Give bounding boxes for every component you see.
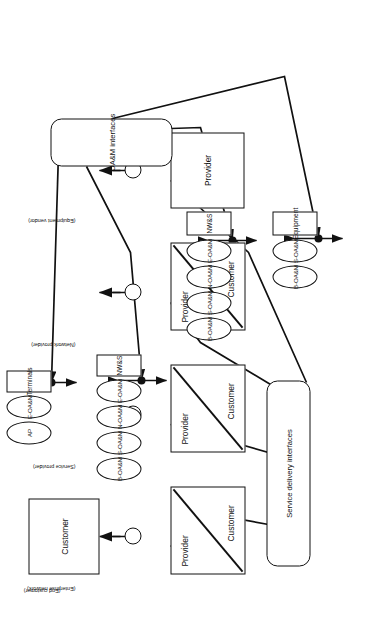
endpoint-equipment-label: Equipment [291, 207, 298, 239]
endpoint-terminals[interactable]: Terminals [6, 370, 51, 392]
oval-s-oam-nws2-label: S-OA&M [205, 291, 212, 315]
paren-service-provider: (Service provider) [32, 463, 75, 468]
node-service-customer-label: Customer [225, 383, 235, 419]
oval-s-oam-equipment-label: S-OA&M [291, 239, 298, 263]
node-end-customer[interactable]: Customer [28, 498, 99, 574]
group-service-delivery-interfaces[interactable]: Service delivery interfaces [266, 380, 310, 566]
oval-b-oam-equipment-label: B-OA&M [291, 265, 298, 289]
oval-n-oam-nws2-label: N-OA&M [205, 264, 212, 288]
node-service-provider-label: Provider [179, 413, 189, 444]
oval-s-oam-nws1[interactable]: S-OA&M [96, 431, 141, 454]
oval-e-oam-nws2-label: E-OA&M [205, 239, 212, 263]
node-service-provider[interactable]: Provider Customer [170, 364, 245, 452]
oval-e-oam-terminals-label: E-OA&M [25, 395, 32, 419]
paren-equipment-vendor: (Equipment vendor) [28, 217, 75, 222]
endpoint-equipment[interactable]: Equipment [272, 211, 317, 235]
oval-s-oam-equipment[interactable]: S-OA&M [272, 239, 317, 262]
paren-network-provider: (Network provider) [31, 341, 75, 346]
group-oam-interfaces[interactable]: OA&M interfaces [50, 118, 172, 166]
oval-e-oam-nws1[interactable]: E-OA&M [96, 379, 141, 402]
endpoint-terminals-label: Terminals [25, 367, 32, 395]
oval-b-oam-nws1-label: B-OA&M [115, 457, 122, 481]
oval-ap[interactable]: AP [6, 421, 51, 444]
paren-enterprise-network: (Enterprise network) [26, 585, 75, 590]
oval-n-oam-nws2[interactable]: N-OA&M [186, 265, 231, 288]
oval-b-oam-nws1[interactable]: B-OA&M [96, 457, 141, 480]
oval-b-oam-equipment[interactable]: B-OA&M [272, 265, 317, 288]
node-end-customer-label: Customer [59, 499, 69, 573]
node-equipment-vendor[interactable]: Provider [170, 132, 244, 208]
figure-canvas: Customer (End customer) Provider Custome… [0, 0, 373, 632]
oval-e-oam-nws1-label: E-OA&M [115, 379, 122, 403]
node-enterprise-customer-label: Customer [225, 505, 235, 541]
node-equipment-vendor-label: Provider [202, 133, 212, 207]
oval-b-oam-nws2-label: B-OA&M [205, 317, 212, 341]
oval-s-oam-nws2[interactable]: S-OA&M [186, 291, 231, 314]
group-service-delivery-label: Service delivery interfaces [284, 429, 293, 518]
oval-s-oam-nws1-label: S-OA&M [115, 431, 122, 455]
oval-e-oam-nws2[interactable]: E-OA&M [186, 239, 231, 262]
diagram-landscape-root: Customer (End customer) Provider Custome… [0, 0, 373, 632]
oval-e-oam-terminals[interactable]: E-OA&M [6, 395, 51, 418]
oval-ap-label: AP [25, 428, 32, 436]
oval-b-oam-nws2[interactable]: B-OA&M [186, 317, 231, 340]
node-enterprise-network[interactable]: Provider Customer [170, 486, 245, 574]
endpoint-nws-2-label: NW&S [205, 213, 212, 233]
interface-circle-end-customer[interactable] [124, 527, 141, 544]
oval-n-oam-nws1[interactable]: N-OA&M [96, 405, 141, 428]
group-oam-label: OA&M interfaces [107, 113, 116, 170]
interface-circle-service-provider[interactable] [124, 283, 141, 300]
endpoint-nws-1-label: NW&S [115, 355, 122, 375]
oval-n-oam-nws1-label: N-OA&M [115, 404, 122, 428]
node-enterprise-provider-label: Provider [179, 535, 189, 566]
endpoint-nws-2[interactable]: NW&S [186, 211, 231, 235]
endpoint-nws-1[interactable]: NW&S [96, 354, 141, 376]
junction-dot-nws-1 [137, 376, 145, 384]
